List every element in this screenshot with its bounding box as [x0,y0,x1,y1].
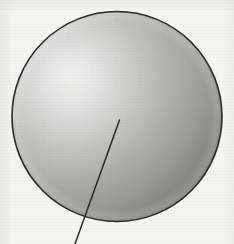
sphere-body [12,12,222,222]
sphere-diagram-svg [0,0,234,244]
sphere-rim-light [12,12,222,222]
figure-plate [0,0,234,244]
